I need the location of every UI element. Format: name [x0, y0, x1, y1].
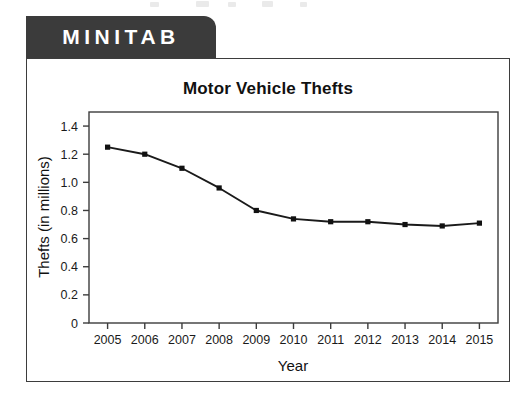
- y-tick-label: 0.8: [61, 204, 78, 218]
- x-tick-label: 2007: [168, 333, 196, 347]
- y-axis-title: Thefts (in millions): [35, 156, 52, 278]
- data-point-marker: [477, 221, 482, 226]
- series-line: [108, 147, 480, 226]
- data-point-marker: [440, 223, 445, 228]
- y-tick-label: 0.6: [61, 232, 78, 246]
- x-tick-label: 2008: [205, 333, 233, 347]
- data-point-marker: [254, 208, 259, 213]
- data-series: [105, 145, 482, 229]
- data-point-marker: [365, 219, 370, 224]
- y-tick-label: 1.0: [61, 176, 78, 190]
- y-axis: 00.20.40.60.81.01.21.4: [61, 120, 89, 331]
- minitab-brand-tab: MINITAB: [26, 16, 216, 58]
- x-tick-label: 2012: [354, 333, 382, 347]
- x-tick-label: 2009: [242, 333, 270, 347]
- x-axis: 2005200620072008200920102011201220132014…: [94, 323, 494, 347]
- x-tick-label: 2015: [466, 333, 494, 347]
- y-tick-label: 1.2: [61, 148, 78, 162]
- x-tick-label: 2014: [428, 333, 456, 347]
- figure-panel: Motor Vehicle Thefts 00.20.40.60.81.01.2…: [26, 58, 510, 382]
- data-point-marker: [105, 145, 110, 150]
- x-axis-title: Year: [278, 357, 308, 374]
- data-point-marker: [291, 216, 296, 221]
- data-point-marker: [402, 222, 407, 227]
- y-tick-label: 0.2: [61, 288, 78, 302]
- data-point-marker: [328, 219, 333, 224]
- data-point-marker: [217, 185, 222, 190]
- x-tick-label: 2013: [391, 333, 419, 347]
- y-tick-label: 1.4: [61, 120, 78, 134]
- y-tick-label: 0.4: [61, 260, 78, 274]
- y-tick-label: 0: [71, 317, 78, 331]
- minitab-brand-label: MINITAB: [26, 25, 216, 49]
- scan-artifacts: [0, 0, 532, 14]
- x-tick-label: 2005: [94, 333, 122, 347]
- x-tick-label: 2006: [131, 333, 159, 347]
- data-point-marker: [179, 166, 184, 171]
- x-tick-label: 2011: [317, 333, 344, 347]
- line-chart: 00.20.40.60.81.01.21.4 20052006200720082…: [27, 59, 511, 383]
- data-point-marker: [142, 152, 147, 157]
- x-tick-label: 2010: [280, 333, 308, 347]
- chart-svg: 00.20.40.60.81.01.21.4 20052006200720082…: [27, 59, 511, 383]
